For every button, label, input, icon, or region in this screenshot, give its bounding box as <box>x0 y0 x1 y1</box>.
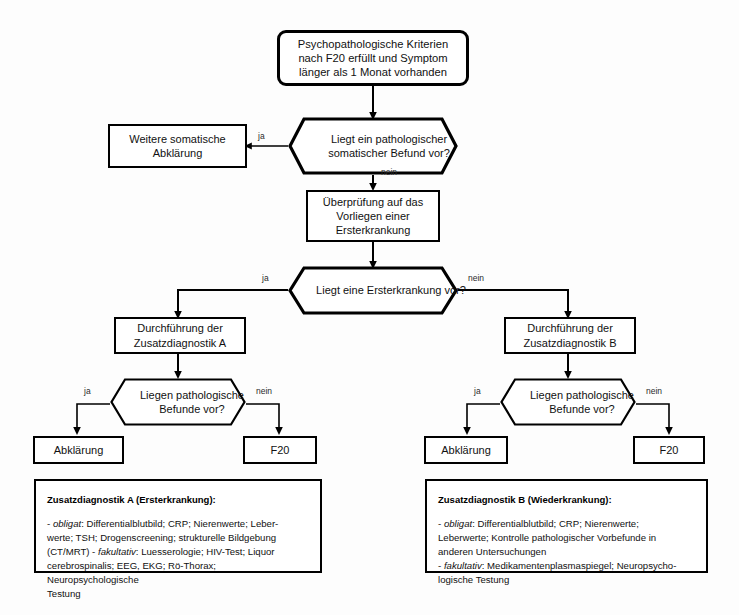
edge-label-findings-b-yes: ja <box>474 386 481 396</box>
edge-label-first-illness-yes: ja <box>262 273 269 283</box>
node-check-first-illness-label: Überprüfung auf das Vorliegen einer Erst… <box>313 195 433 237</box>
node-clarify-b: Abklärung <box>424 436 508 464</box>
legend-b-title: Zusatzdiagnostik B (Wiederkrankung): <box>438 494 695 505</box>
edge-label-first-illness-no: nein <box>468 273 484 283</box>
edge-label-findings-a-no: nein <box>256 386 272 396</box>
node-f20-a-label: F20 <box>271 443 290 457</box>
legend-a-title: Zusatzdiagnostik A (Ersterkrankung): <box>47 494 309 505</box>
node-clarify-b-label: Abklärung <box>441 443 491 457</box>
node-decision-somatic: Liegt ein pathologischer somatischer Bef… <box>288 117 458 175</box>
node-decision-findings-b-label: Liegen pathologische Befunde vor? <box>514 388 650 416</box>
edge-label-somatic-yes: ja <box>258 131 265 141</box>
legend-zusatzdiagnostik-a: Zusatzdiagnostik A (Ersterkrankung): - o… <box>34 479 322 573</box>
legend-a-body: - obligat: Differentialblutbild; CRP; Ni… <box>47 517 309 600</box>
node-perform-a: Durchführung der Zusatzdiagnostik A <box>114 317 246 354</box>
legend-b-body: - obligat: Differentialblutbild; CRP; Ni… <box>438 517 695 587</box>
node-decision-first-illness: Liegt eine Ersterkrankung vor? <box>288 266 458 315</box>
node-f20-b-label: F20 <box>660 443 679 457</box>
node-decision-first-illness-label: Liegt eine Ersterkrankung vor? <box>316 283 466 297</box>
node-perform-a-label: Durchführung der Zusatzdiagnostik A <box>120 321 240 349</box>
edge-label-somatic-no: nein <box>381 167 397 177</box>
node-perform-b-label: Durchführung der Zusatzdiagnostik B <box>510 321 630 349</box>
legend-zusatzdiagnostik-b: Zusatzdiagnostik B (Wiederkrankung): - o… <box>425 479 708 573</box>
node-decision-findings-a-label: Liegen pathologische Befunde vor? <box>124 388 260 416</box>
node-clarify-a: Abklärung <box>33 436 124 464</box>
node-f20-b: F20 <box>633 436 705 464</box>
node-start-label: Psychopathologische Kriterien nach F20 e… <box>288 37 458 80</box>
node-perform-b: Durchführung der Zusatzdiagnostik B <box>504 317 636 354</box>
node-check-first-illness: Überprüfung auf das Vorliegen einer Erst… <box>306 190 440 242</box>
node-decision-somatic-label: Liegt ein pathologischer somatischer Bef… <box>304 132 474 160</box>
node-f20-a: F20 <box>243 436 317 464</box>
edge-label-findings-a-yes: ja <box>84 386 91 396</box>
node-start: Psychopathologische Kriterien nach F20 e… <box>277 30 469 86</box>
flowchart-canvas: Psychopathologische Kriterien nach F20 e… <box>0 0 739 615</box>
node-decision-findings-b: Liegen pathologische Befunde vor? <box>500 378 636 426</box>
edge-label-findings-b-no: nein <box>646 386 662 396</box>
node-somatic-clarify-label: Weitere somatische Abklärung <box>115 132 240 160</box>
node-decision-findings-a: Liegen pathologische Befunde vor? <box>110 378 246 426</box>
node-somatic-clarify: Weitere somatische Abklärung <box>108 124 247 168</box>
node-clarify-a-label: Abklärung <box>54 443 104 457</box>
